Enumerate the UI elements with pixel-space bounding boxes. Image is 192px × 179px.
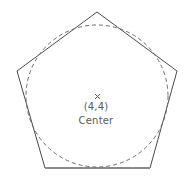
figure-canvas <box>0 0 192 179</box>
geometry-figure: (4,4) Center <box>0 0 192 179</box>
center-cross-icon <box>95 94 100 99</box>
pentagon-outline <box>17 12 177 168</box>
